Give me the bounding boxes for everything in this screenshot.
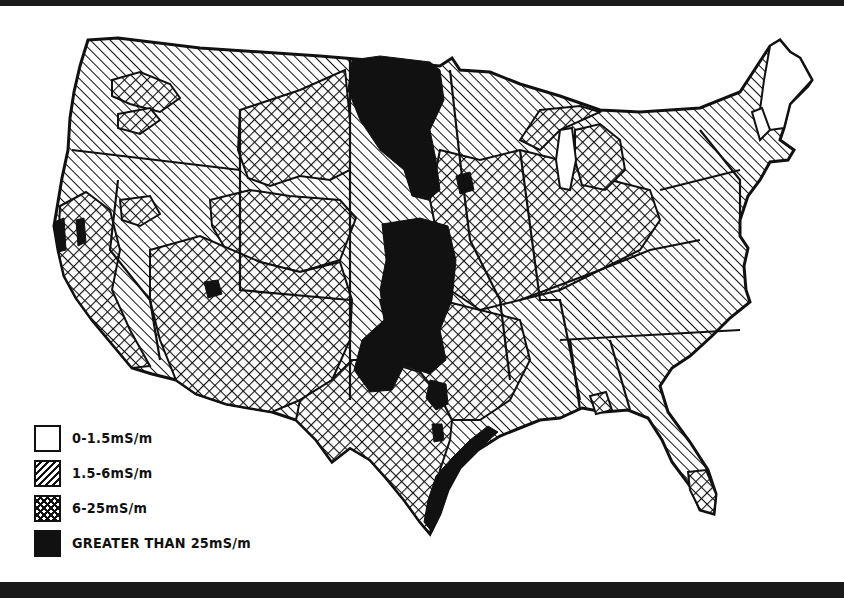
legend-label: GREATER THAN 25mS/m <box>72 535 251 551</box>
region-solid-tx-spot <box>432 424 444 442</box>
cross-hatch-swatch-icon <box>34 495 61 522</box>
legend-item-high: 6-25mS/m <box>34 494 267 522</box>
legend-item-very-high: GREATER THAN 25mS/m <box>34 529 267 557</box>
legend-item-low: 0-1.5mS/m <box>34 424 267 452</box>
blank-swatch-icon <box>34 425 61 452</box>
diagonal-hatch-swatch-icon <box>34 460 61 487</box>
legend-label: 6-25mS/m <box>72 500 147 516</box>
map-legend: 0-1.5mS/m 1.5-6mS/m 6-25mS/m GREATER THA… <box>34 424 267 564</box>
legend-label: 1.5-6mS/m <box>72 465 152 481</box>
legend-item-moderate: 1.5-6mS/m <box>34 459 267 487</box>
region-south-florida <box>688 470 716 514</box>
solid-swatch-icon <box>34 530 61 557</box>
legend-label: 0-1.5mS/m <box>72 430 152 446</box>
scan-frame-bottom <box>0 582 844 598</box>
region-solid-ca-coast-2 <box>76 218 86 246</box>
new-england-north <box>760 40 812 130</box>
region-solid-ca-coast-1 <box>54 218 66 252</box>
